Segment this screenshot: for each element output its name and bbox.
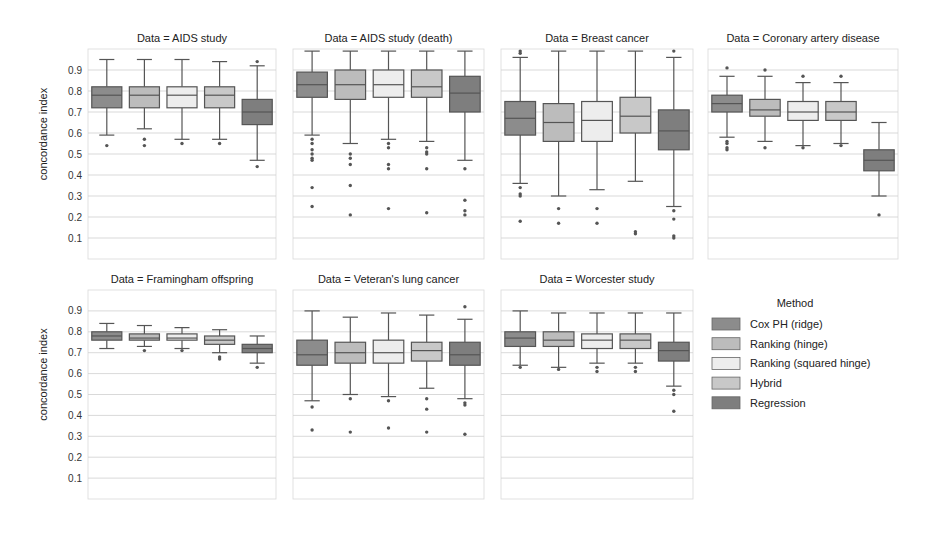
box-regression [242, 336, 272, 369]
outlier-point [105, 144, 108, 147]
iqr-box [750, 99, 780, 116]
iqr-box [505, 332, 536, 347]
outlier-point [672, 217, 675, 220]
outlier-point [839, 144, 842, 147]
iqr-box [205, 87, 235, 108]
outlier-point [310, 405, 313, 408]
outlier-point [519, 186, 522, 189]
box-ranking-hinge [335, 317, 366, 434]
legend-label: Cox PH (ridge) [750, 318, 823, 330]
iqr-box [620, 97, 651, 133]
y-tick-label: 0.8 [68, 326, 82, 337]
box-ranking-hinge [129, 60, 159, 148]
outlier-point [763, 68, 766, 71]
legend-swatch [712, 377, 740, 389]
outlier-point [519, 52, 522, 55]
iqr-box [658, 342, 689, 361]
outlier-point [387, 207, 390, 210]
iqr-box [92, 87, 122, 108]
box-ranking-squared-hinge [373, 313, 404, 430]
box-ranking-hinge [335, 51, 366, 217]
outlier-point [557, 207, 560, 210]
iqr-box [297, 340, 328, 365]
iqr-box [658, 110, 689, 150]
box-ranking-hinge [543, 51, 574, 225]
outlier-point [519, 366, 522, 369]
outlier-point [310, 148, 313, 151]
box-hybrid [411, 315, 442, 434]
box-cox-ph-ridge [297, 311, 328, 432]
outlier-point [672, 389, 675, 392]
outlier-point [310, 142, 313, 145]
panel-4: 0.10.20.30.40.50.60.70.80.9concordance i… [37, 273, 276, 499]
iqr-box [373, 70, 404, 97]
outlier-point [349, 157, 352, 160]
iqr-box [373, 340, 404, 363]
outlier-point [519, 194, 522, 197]
y-tick-label: 0.2 [68, 452, 82, 463]
outlier-point [425, 430, 428, 433]
outlier-point [463, 167, 466, 170]
outlier-point [425, 167, 428, 170]
outlier-point [310, 205, 313, 208]
box-regression [658, 313, 689, 413]
panel-2: Data = Breast cancer [501, 32, 693, 259]
outlier-point [672, 393, 675, 396]
outlier-point [387, 146, 390, 149]
box-regression [450, 51, 481, 217]
box-regression [658, 49, 689, 239]
iqr-box [450, 342, 481, 365]
outlier-point [425, 211, 428, 214]
y-tick-label: 0.1 [68, 233, 82, 244]
outlier-point [143, 349, 146, 352]
outlier-point [180, 142, 183, 145]
y-tick-label: 0.6 [68, 128, 82, 139]
outlier-point [763, 146, 766, 149]
panel-6: Data = Worcester study [501, 273, 693, 499]
iqr-box [582, 102, 613, 142]
legend-swatch [712, 357, 740, 369]
box-ranking-squared-hinge [373, 51, 404, 210]
box-hybrid [205, 330, 235, 361]
legend-label: Ranking (hinge) [750, 338, 828, 350]
legend-title: Method [777, 297, 814, 309]
iqr-box [129, 334, 159, 340]
box-cox-ph-ridge [712, 66, 742, 151]
legend-swatch [712, 318, 740, 330]
outlier-point [143, 138, 146, 141]
legend-label: Ranking (squared hinge) [750, 357, 870, 369]
outlier-point [143, 144, 146, 147]
outlier-point [725, 148, 728, 151]
y-tick-label: 0.4 [68, 170, 82, 181]
panel-title: Data = Veteran's lung cancer [318, 273, 460, 285]
outlier-point [557, 222, 560, 225]
box-regression [864, 123, 894, 217]
y-tick-label: 0.9 [68, 65, 82, 76]
outlier-point [801, 75, 804, 78]
outlier-point [557, 368, 560, 371]
y-tick-label: 0.2 [68, 212, 82, 223]
outlier-point [387, 163, 390, 166]
iqr-box [620, 334, 651, 349]
outlier-point [595, 222, 598, 225]
outlier-point [463, 305, 466, 308]
outlier-point [387, 426, 390, 429]
y-tick-label: 0.8 [68, 86, 82, 97]
box-cox-ph-ridge [92, 60, 122, 148]
box-cox-ph-ridge [505, 311, 536, 369]
box-regression [450, 305, 481, 436]
outlier-point [349, 397, 352, 400]
panel-5: Data = Veteran's lung cancer [293, 273, 484, 499]
outlier-point [349, 184, 352, 187]
panel-title: Data = Worcester study [539, 273, 655, 285]
outlier-point [672, 209, 675, 212]
outlier-point [349, 163, 352, 166]
y-tick-label: 0.3 [68, 191, 82, 202]
y-axis-label: concordance index [37, 87, 49, 180]
box-ranking-hinge [543, 313, 574, 371]
outlier-point [218, 357, 221, 360]
panel-title: Data = Breast cancer [545, 32, 649, 44]
box-ranking-squared-hinge [167, 60, 197, 146]
outlier-point [672, 49, 675, 52]
outlier-point [310, 138, 313, 141]
